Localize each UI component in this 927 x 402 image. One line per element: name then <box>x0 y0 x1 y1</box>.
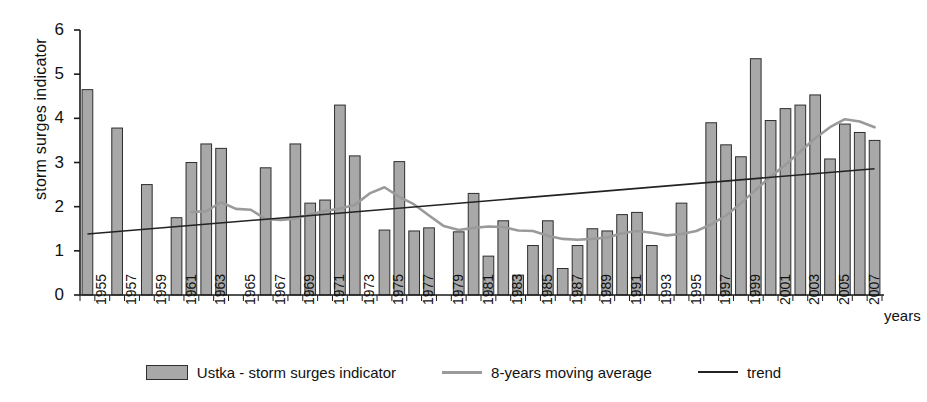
x-tick-label-1977: 1977 <box>420 274 436 305</box>
bar-1972 <box>335 105 346 295</box>
x-tick-label-1959: 1959 <box>153 274 169 305</box>
legend-line-swatch-icon <box>442 371 482 374</box>
x-tick-label-1983: 1983 <box>509 274 525 305</box>
x-tick-label-1957: 1957 <box>123 274 139 305</box>
bar-1998 <box>721 145 732 295</box>
x-tick-label-1971: 1971 <box>331 274 347 305</box>
bar-2002 <box>780 109 791 295</box>
x-tick-label-1987: 1987 <box>569 274 585 305</box>
legend-item-moving-average: 8-years moving average <box>442 364 652 381</box>
bar-1967 <box>260 168 271 295</box>
bar-2000 <box>750 59 761 295</box>
legend-item-bars: Ustka - storm surges indicator <box>146 364 396 381</box>
x-tick-label-1981: 1981 <box>480 274 496 305</box>
legend-bar-swatch-icon <box>146 365 188 380</box>
bar-1959 <box>141 185 152 295</box>
x-tick-label-1967: 1967 <box>272 274 288 305</box>
x-tick-label-2001: 2001 <box>777 274 793 305</box>
legend-label-moving-average: 8-years moving average <box>491 364 652 381</box>
bar-1961 <box>171 218 182 295</box>
legend-label-trend: trend <box>747 364 781 381</box>
x-tick-label-2005: 2005 <box>836 274 852 305</box>
bar-1955 <box>82 90 93 295</box>
y-tick-label-3: 3 <box>42 153 64 173</box>
bar-2006 <box>840 124 851 295</box>
x-tick-label-1989: 1989 <box>598 274 614 305</box>
bar-1997 <box>706 123 717 295</box>
y-tick-label-4: 4 <box>42 108 64 128</box>
legend-trend-swatch-icon <box>698 371 738 373</box>
legend-item-trend: trend <box>698 364 781 381</box>
x-tick-label-1997: 1997 <box>717 274 733 305</box>
bar-1963 <box>201 144 212 295</box>
bar-2005 <box>825 159 836 295</box>
x-tick-label-1955: 1955 <box>93 274 109 305</box>
bar-1987 <box>557 269 568 296</box>
x-tick-label-1975: 1975 <box>390 274 406 305</box>
y-tick-label-0: 0 <box>42 285 64 305</box>
x-tick-label-1969: 1969 <box>301 274 317 305</box>
bar-1985 <box>528 246 539 295</box>
x-tick-label-1979: 1979 <box>450 274 466 305</box>
chart-container: storm surges indicator 0123456 years Ust… <box>0 0 927 402</box>
x-tick-label-1991: 1991 <box>628 274 644 305</box>
bar-1993 <box>646 246 657 295</box>
x-tick-label-2007: 2007 <box>866 274 882 305</box>
x-tick-label-1963: 1963 <box>212 274 228 305</box>
y-axis-tick-labels: 0123456 <box>38 0 64 402</box>
chart-plot-area <box>0 0 927 402</box>
bar-2001 <box>765 121 776 295</box>
y-tick-label-5: 5 <box>42 64 64 84</box>
x-tick-label-1999: 1999 <box>747 274 763 305</box>
chart-legend: Ustka - storm surges indicator 8-years m… <box>0 352 927 392</box>
x-tick-label-1973: 1973 <box>361 274 377 305</box>
bar-2004 <box>810 95 821 295</box>
bar-1977 <box>409 231 420 295</box>
bar-1981 <box>468 193 479 295</box>
bar-1973 <box>349 156 360 295</box>
bar-2008 <box>869 140 880 295</box>
bar-1975 <box>379 230 390 295</box>
legend-label-bars: Ustka - storm surges indicator <box>197 364 396 381</box>
x-tick-label-1993: 1993 <box>658 274 674 305</box>
x-tick-label-1995: 1995 <box>688 274 704 305</box>
bar-1999 <box>736 157 747 295</box>
x-axis-title: years <box>884 307 921 324</box>
y-tick-label-2: 2 <box>42 197 64 217</box>
x-tick-label-1965: 1965 <box>242 274 258 305</box>
y-tick-label-1: 1 <box>42 241 64 261</box>
bar-1995 <box>676 203 687 295</box>
bar-1957 <box>112 128 123 295</box>
bar-1991 <box>617 215 628 295</box>
x-tick-label-1985: 1985 <box>539 274 555 305</box>
x-tick-label-1961: 1961 <box>183 274 199 305</box>
bar-2007 <box>854 132 865 295</box>
y-tick-label-6: 6 <box>42 20 64 40</box>
bar-group <box>82 59 880 295</box>
x-tick-label-2003: 2003 <box>806 274 822 305</box>
bar-1983 <box>498 221 509 295</box>
bar-2003 <box>795 105 806 295</box>
